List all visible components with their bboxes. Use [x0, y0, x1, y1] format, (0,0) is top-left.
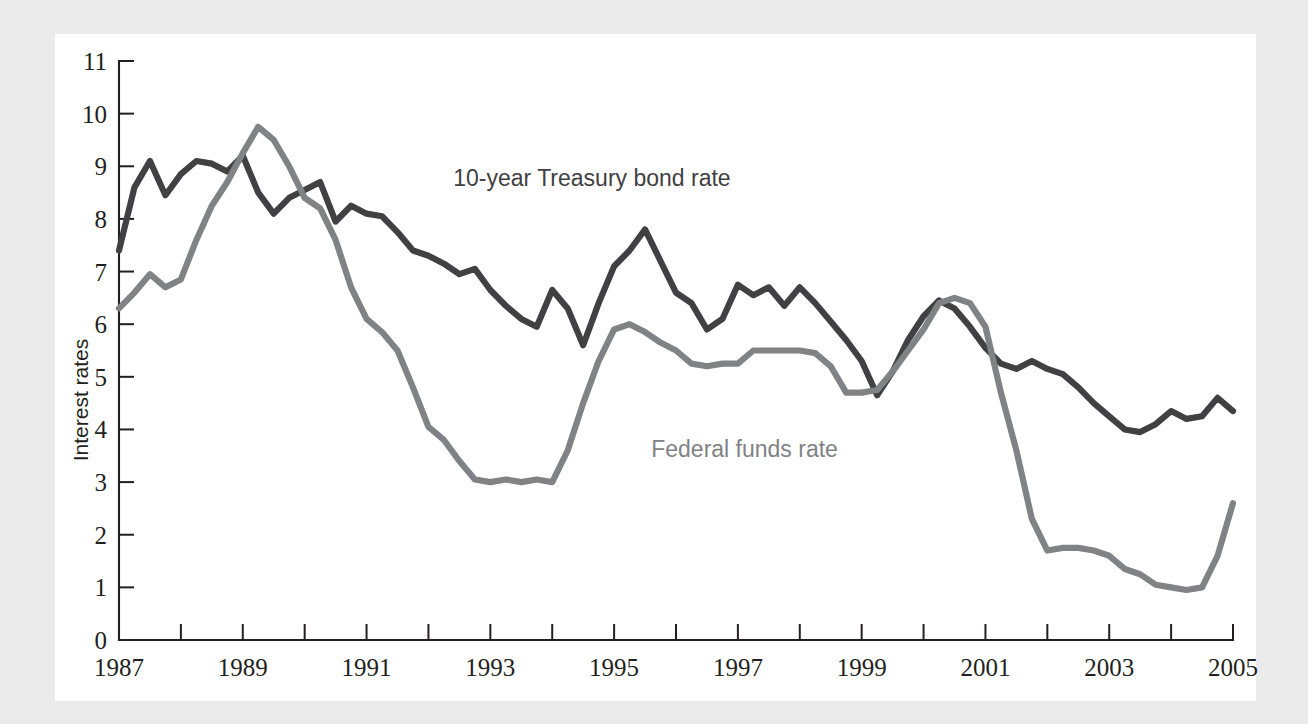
- series-line-federal-funds-rate: [119, 127, 1233, 590]
- x-tick-label-1989: 1989: [218, 654, 268, 681]
- x-tick-label-2001: 2001: [960, 654, 1010, 681]
- y-axis-ticks: [119, 61, 134, 640]
- x-tick-label-1987: 1987: [94, 654, 144, 681]
- y-tick-label-6: 6: [95, 311, 108, 338]
- y-tick-label-7: 7: [95, 259, 108, 286]
- y-tick-label-9: 9: [95, 153, 108, 180]
- y-tick-label-4: 4: [95, 416, 108, 443]
- x-tick-label-1995: 1995: [589, 654, 639, 681]
- figure-root: 01234567891011 1987198919911993199519971…: [0, 0, 1308, 724]
- x-tick-label-2003: 2003: [1084, 654, 1134, 681]
- x-tick-label-1993: 1993: [465, 654, 515, 681]
- x-tick-label-1991: 1991: [342, 654, 392, 681]
- y-tick-label-1: 1: [95, 574, 108, 601]
- series-paths-group: [119, 127, 1233, 590]
- x-tick-label-2005: 2005: [1208, 654, 1258, 681]
- y-axis-title: Interest rates: [69, 339, 92, 462]
- series-line-10-year-treasury-bond-rate: [119, 156, 1233, 432]
- annotation-federal-funds-rate: Federal funds rate: [651, 436, 838, 462]
- x-axis-ticks: [119, 624, 1233, 640]
- y-tick-label-3: 3: [95, 469, 108, 496]
- y-tick-label-0: 0: [95, 627, 108, 654]
- annotation-10-year-treasury-bond-rate: 10-year Treasury bond rate: [453, 165, 730, 191]
- y-tick-label-8: 8: [95, 206, 108, 233]
- x-tick-label-1999: 1999: [837, 654, 887, 681]
- y-tick-label-5: 5: [95, 364, 108, 391]
- y-tick-label-10: 10: [82, 101, 107, 128]
- y-tick-label-11: 11: [83, 48, 107, 75]
- x-axis-tick-labels: 1987198919911993199519971999200120032005: [94, 654, 1258, 681]
- x-tick-label-1997: 1997: [713, 654, 763, 681]
- interest-rates-line-chart: 01234567891011 1987198919911993199519971…: [0, 0, 1308, 724]
- y-tick-label-2: 2: [95, 522, 108, 549]
